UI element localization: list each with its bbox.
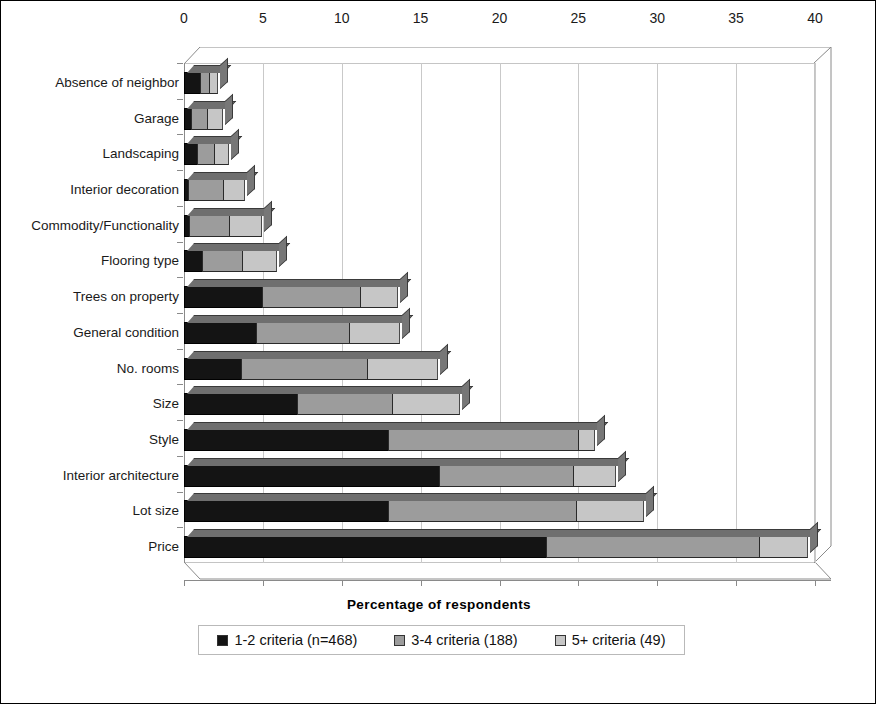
category-tick <box>177 420 183 421</box>
bar-segment-series-1[interactable] <box>184 322 257 344</box>
bar-top-face <box>187 529 821 537</box>
chart-legend: 1-2 criteria (n=468) 3-4 criteria (188) … <box>198 625 685 655</box>
legend-label-0: 1-2 criteria (n=468) <box>234 632 357 648</box>
x-tick-label-25: 25 <box>558 10 598 26</box>
bar-segment-series-3[interactable] <box>214 143 230 165</box>
bar-segment-series-2[interactable] <box>256 322 351 344</box>
category-tick <box>177 384 183 385</box>
category-label: Size <box>7 397 179 411</box>
bar-segment-series-2[interactable] <box>197 143 214 165</box>
bar-right-face <box>264 200 272 231</box>
bar-segment-series-1[interactable] <box>184 465 440 487</box>
bar-segment-series-3[interactable] <box>360 286 398 308</box>
bar-segment-series-2[interactable] <box>188 179 224 201</box>
x-tick-5 <box>263 580 264 586</box>
bar-segment-series-2[interactable] <box>439 465 575 487</box>
gridline-25 <box>578 63 579 563</box>
legend-item-0[interactable]: 1-2 criteria (n=468) <box>217 632 357 648</box>
gridline-20 <box>500 63 501 563</box>
bar-right-face <box>440 343 448 374</box>
bar-right-face <box>597 415 605 446</box>
legend-swatch-lightgray-icon <box>555 635 566 646</box>
bar-segment-series-1[interactable] <box>184 536 547 558</box>
bar-segment-series-1[interactable] <box>184 393 298 415</box>
category-tick <box>177 456 183 457</box>
bar-segment-series-2[interactable] <box>241 358 367 380</box>
bar-segment-series-3[interactable] <box>349 322 399 344</box>
bar-segment-series-1[interactable] <box>184 429 389 451</box>
stacked-bar[interactable] <box>184 286 397 308</box>
legend-swatch-gray-icon <box>394 635 405 646</box>
bar-segment-series-3[interactable] <box>209 72 218 94</box>
bar-segment-series-3[interactable] <box>578 429 595 451</box>
bar-segment-series-3[interactable] <box>242 250 277 272</box>
stacked-bar[interactable] <box>184 429 594 451</box>
x-tick-0 <box>184 580 185 586</box>
stacked-bar[interactable] <box>184 358 437 380</box>
bar-top-face <box>187 422 609 430</box>
bar-segment-series-1[interactable] <box>184 286 263 308</box>
bar-right-face <box>462 379 470 410</box>
bar-segment-series-2[interactable] <box>388 500 577 522</box>
stacked-bar[interactable] <box>184 250 276 272</box>
bar-segment-series-3[interactable] <box>392 393 460 415</box>
bar-segment-series-1[interactable] <box>184 143 198 165</box>
stacked-bar[interactable] <box>184 215 261 237</box>
category-label: Garage <box>7 112 179 126</box>
bar-segment-series-1[interactable] <box>184 72 201 94</box>
x-tick-label-15: 15 <box>401 10 441 26</box>
value-axis-ticks <box>184 580 815 588</box>
bar-right-face <box>402 308 410 339</box>
stacked-bar[interactable] <box>184 179 244 201</box>
bar-right-face <box>810 522 818 553</box>
bar-top-face <box>187 279 411 287</box>
stacked-bar[interactable] <box>184 72 217 94</box>
legend-item-2[interactable]: 5+ criteria (49) <box>555 632 666 648</box>
bar-segment-series-2[interactable] <box>297 393 393 415</box>
bar-top-face <box>187 315 413 323</box>
bar-segment-series-2[interactable] <box>388 429 579 451</box>
bar-segment-series-2[interactable] <box>262 286 361 308</box>
bar-segment-series-2[interactable] <box>189 215 230 237</box>
legend-label-2: 5+ criteria (49) <box>572 632 666 648</box>
bar-segment-series-2[interactable] <box>546 536 761 558</box>
stacked-bar[interactable] <box>184 393 459 415</box>
bar-segment-series-3[interactable] <box>576 500 644 522</box>
bar-top-face <box>187 243 290 251</box>
bar-right-face <box>618 450 626 481</box>
bar-segment-series-3[interactable] <box>573 465 616 487</box>
category-label: Commodity/Functionality <box>7 219 179 233</box>
stacked-bar[interactable] <box>184 143 228 165</box>
gridline-40 <box>815 63 816 563</box>
x-tick-40 <box>815 580 816 586</box>
plot-right-face <box>814 47 832 563</box>
category-label: Style <box>7 433 179 447</box>
stacked-bar[interactable] <box>184 108 222 130</box>
stacked-bar[interactable] <box>184 500 643 522</box>
bar-segment-series-3[interactable] <box>759 536 808 558</box>
legend-item-1[interactable]: 3-4 criteria (188) <box>394 632 517 648</box>
bar-segment-series-3[interactable] <box>229 215 262 237</box>
bar-segment-series-3[interactable] <box>207 108 223 130</box>
bar-segment-series-2[interactable] <box>202 250 243 272</box>
bar-segment-series-1[interactable] <box>184 250 203 272</box>
bar-segment-series-1[interactable] <box>184 500 389 522</box>
bar-right-face <box>279 236 287 267</box>
bar-segment-series-2[interactable] <box>191 108 208 130</box>
x-tick-30 <box>657 580 658 586</box>
bar-right-face <box>220 58 228 89</box>
x-tick-label-5: 5 <box>243 10 283 26</box>
category-label: Flooring type <box>7 254 179 268</box>
stacked-bar[interactable] <box>184 465 615 487</box>
stacked-bar[interactable] <box>184 536 807 558</box>
bar-segment-series-1[interactable] <box>184 358 242 380</box>
bar-segment-series-3[interactable] <box>367 358 438 380</box>
plot-floor-face <box>184 562 831 580</box>
category-tick <box>177 170 183 171</box>
bar-right-face <box>247 165 255 196</box>
chart-page: Absence of neighborGarageLandscapingInte… <box>0 0 876 704</box>
bar-segment-series-3[interactable] <box>223 179 245 201</box>
stacked-bar[interactable] <box>184 322 399 344</box>
category-label: Absence of neighbor <box>7 76 179 90</box>
category-tick <box>177 313 183 314</box>
